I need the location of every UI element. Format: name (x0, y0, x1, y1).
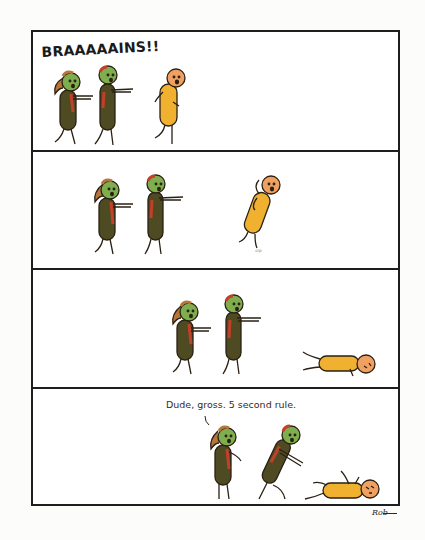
slip-sfx-text: slip (255, 248, 262, 253)
zombie-guy-icon (145, 175, 183, 254)
zombie-guy-icon (95, 66, 133, 145)
panel-1: BRAAAAAINS!! (33, 32, 398, 150)
comic-strip: BRAAAAAINS!! (31, 30, 400, 506)
fallen-human-icon (303, 352, 375, 376)
bending-zombie-icon (259, 426, 303, 499)
zombie-guy-icon (223, 295, 261, 374)
panel-1-art (33, 32, 398, 150)
signature-underline (383, 513, 397, 514)
zombie-girl-icon (211, 427, 241, 499)
slipping-human-icon (239, 176, 280, 248)
panel-2-art (33, 152, 398, 268)
zombie-girl-icon (55, 72, 93, 144)
speech-tail-icon (205, 416, 209, 425)
panel-4-art (33, 389, 398, 504)
zombie-girl-icon (95, 180, 133, 254)
panel-3 (33, 270, 398, 387)
panel-4: Dude, gross. 5 second rule. (33, 389, 398, 504)
panel-3-art (33, 270, 398, 387)
panel-2: slip (33, 152, 398, 268)
scared-human-icon (155, 69, 185, 144)
zombie-girl-icon (173, 302, 211, 374)
fallen-human-icon (305, 471, 379, 499)
